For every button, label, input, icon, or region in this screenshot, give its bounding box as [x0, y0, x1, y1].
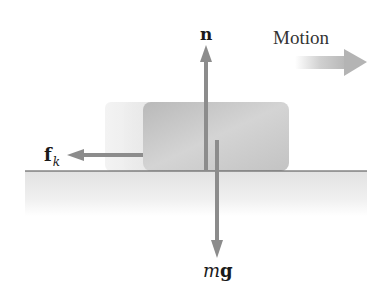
gravity-symbol: g — [220, 260, 233, 281]
motion-label: Motion — [273, 28, 329, 47]
friction-label: fk — [44, 146, 59, 164]
ground-surface — [25, 171, 367, 216]
friction-subscript: k — [53, 155, 60, 169]
normal-force-label: n — [200, 26, 212, 43]
free-body-diagram: n Motion fk mg — [0, 0, 388, 298]
motion-arrow-icon — [295, 49, 367, 76]
mass-symbol: m — [203, 260, 220, 281]
weight-label: mg — [203, 262, 233, 280]
friction-symbol: f — [44, 144, 52, 165]
